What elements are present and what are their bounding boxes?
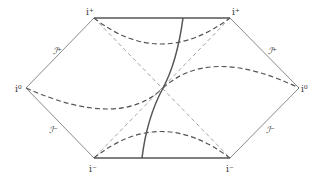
scri-minus-right (230, 88, 299, 158)
penrose-diagram: i⁺ i⁺ i⁰ i⁰ i⁻ i⁻ ℐ⁺ ℐ⁺ ℐ⁻ ℐ⁻ (0, 0, 323, 178)
label-i0-right: i⁰ (301, 84, 308, 94)
label-i-plus-right: i⁺ (232, 7, 240, 17)
label-i-minus-left: i⁻ (89, 164, 97, 174)
slice-upper-wide (26, 88, 163, 109)
slice-lower-wide (163, 67, 299, 89)
scri-minus-left (26, 88, 94, 158)
label-i-minus-right: i⁻ (226, 164, 234, 174)
label-i-plus-left: i⁺ (86, 7, 94, 17)
worldline (142, 18, 183, 158)
label-scri-minus-right: ℐ⁻ (266, 125, 275, 135)
label-i0-left: i⁰ (15, 84, 22, 94)
slice-bottom (94, 132, 230, 159)
label-scri-plus-right: ℐ⁺ (268, 46, 277, 56)
scri-plus-right (230, 18, 299, 88)
label-scri-plus-left: ℐ⁺ (53, 46, 62, 56)
label-scri-minus-left: ℐ⁻ (49, 125, 58, 135)
slice-top (94, 18, 230, 44)
